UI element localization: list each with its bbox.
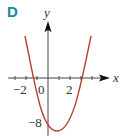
tick-label-neg2: −2 [13,82,27,97]
y-axis-label: y [42,5,50,20]
tick-label-2: 2 [66,82,73,97]
x-axis [8,75,110,82]
x-axis-label: x [112,70,119,85]
tick-label-neg8: −8 [28,115,42,130]
tick-label-0: 0 [38,82,45,97]
graph: x y −2 0 2 −8 [0,0,122,140]
